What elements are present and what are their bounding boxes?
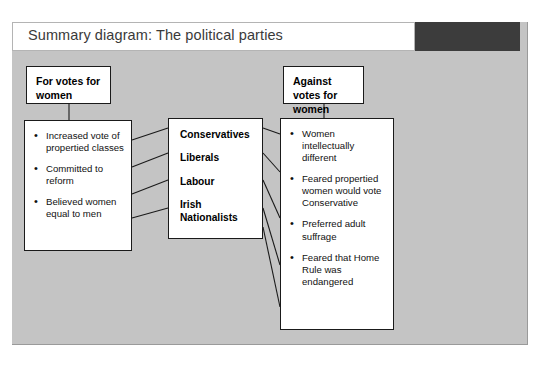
connector-for-1-to-parties [132, 128, 168, 140]
list-item: Women intellectually different [290, 128, 387, 164]
node-for-votes-points[interactable]: Increased vote of propertied classes Com… [24, 120, 132, 251]
node-for-votes-header-label: For votes for women [27, 67, 110, 102]
node-for-votes-header[interactable]: For votes for women [26, 66, 111, 104]
connector-parties-to-against-1 [263, 128, 280, 134]
list-item: Liberals [180, 152, 256, 164]
list-item: Feared that Home Rule was endangered [290, 252, 387, 288]
node-against-votes-points[interactable]: Women intellectually different Feared pr… [280, 118, 394, 330]
list-item: Conservatives [180, 129, 256, 141]
summary-diagram-panel: Summary diagram: The political parties F… [12, 22, 528, 345]
node-political-parties[interactable]: Conservatives Liberals Labour Irish Nati… [168, 118, 263, 239]
connector-for-2-to-parties [132, 153, 168, 167]
list-item: Increased vote of propertied classes [34, 130, 125, 154]
political-party-list: Conservatives Liberals Labour Irish Nati… [169, 119, 262, 224]
list-item: Believed women equal to men [34, 196, 125, 220]
connector-for-3-to-parties [132, 180, 168, 194]
connector-parties-to-against-5 [263, 227, 280, 307]
for-votes-point-list: Increased vote of propertied classes Com… [25, 121, 131, 220]
list-item: Committed to reform [34, 163, 125, 187]
node-against-votes-header-label: Against votes for women [284, 67, 363, 117]
connector-for-4-to-parties [132, 208, 168, 218]
list-item: Feared propertied women would vote Conse… [290, 173, 387, 209]
list-item: Labour [180, 176, 256, 188]
list-item: Irish Nationalists [180, 199, 256, 224]
node-against-votes-header[interactable]: Against votes for women [283, 66, 364, 104]
connector-parties-to-against-2 [263, 153, 280, 172]
list-item: Preferred adult suffrage [290, 218, 387, 242]
connector-parties-to-against-3 [263, 180, 280, 218]
against-votes-point-list: Women intellectually different Feared pr… [281, 119, 393, 288]
